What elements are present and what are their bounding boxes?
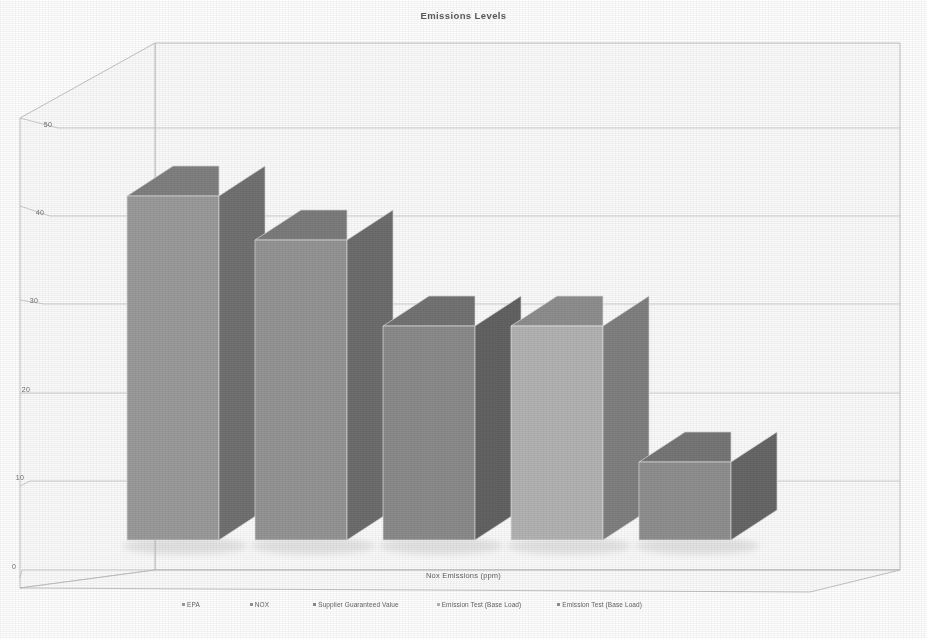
legend-marker-icon: [313, 603, 316, 606]
legend-label: NOX: [255, 601, 269, 608]
legend-marker-icon: [182, 603, 185, 606]
legend-item-epa[interactable]: EPA: [182, 601, 200, 608]
legend-marker-icon: [437, 603, 440, 606]
legend-label: Emission Test (Base Load): [442, 601, 522, 608]
legend-label: EPA: [187, 601, 200, 608]
legend-label: Emission Test (Base Load): [562, 601, 642, 608]
chart-plot-area: [0, 0, 927, 638]
legend-item-emission-test-base-load-2[interactable]: Emission Test (Base Load): [557, 601, 642, 608]
bar-nox: [251, 210, 393, 554]
legend-marker-icon: [250, 603, 253, 606]
chart-legend: EPA NOX Supplier Guaranteed Value Emissi…: [150, 601, 850, 608]
legend-item-emission-test-base-load-1[interactable]: Emission Test (Base Load): [437, 601, 522, 608]
legend-marker-icon: [557, 603, 560, 606]
y-tick-label-20: 20: [0, 386, 30, 393]
y-tick-label-0: 0: [0, 563, 16, 570]
legend-item-supplier-guaranteed-value[interactable]: Supplier Guaranteed Value: [313, 601, 398, 608]
legend-item-nox[interactable]: NOX: [250, 601, 269, 608]
y-tick-label-10: 10: [0, 474, 24, 481]
bar-supplier-guaranteed-value: [379, 296, 521, 554]
bar-epa: [123, 166, 265, 554]
y-tick-label-30: 30: [4, 297, 38, 304]
y-tick-label-40: 40: [10, 209, 44, 216]
legend-label: Supplier Guaranteed Value: [318, 601, 398, 608]
y-tick-label-50: 50: [18, 121, 52, 128]
x-axis-title: Nox Emissions (ppm): [0, 571, 927, 580]
bar-emission-test-base-load-1: [507, 296, 649, 554]
